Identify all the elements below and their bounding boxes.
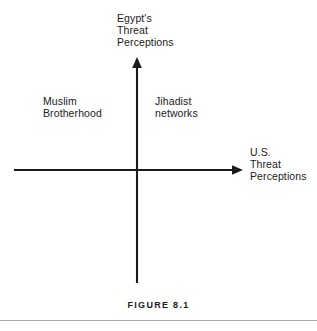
figure-plot-area: Egypt's Threat Perceptions U.S. Threat P… bbox=[0, 0, 317, 295]
y-axis-label: Egypt's Threat Perceptions bbox=[117, 12, 174, 49]
footer-divider bbox=[0, 320, 317, 321]
figure-caption: FIGURE 8.1 bbox=[0, 300, 317, 310]
annotation-muslim-brotherhood: Muslim Brotherhood bbox=[43, 95, 102, 119]
annotation-jihadist-networks: Jihadist networks bbox=[155, 95, 198, 119]
x-axis-label: U.S. Threat Perceptions bbox=[250, 146, 307, 183]
x-axis-arrowhead-icon bbox=[232, 165, 243, 175]
figure-page: Egypt's Threat Perceptions U.S. Threat P… bbox=[0, 0, 317, 331]
y-axis-arrowhead-icon bbox=[132, 57, 142, 68]
